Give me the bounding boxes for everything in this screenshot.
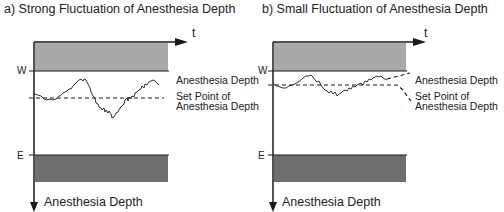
diagram-graphics [0,0,504,212]
panel-a-lower-band [35,155,168,182]
panel-b-depth-label-leader [387,73,410,79]
panel-a-depth-arrow-icon [30,202,38,212]
panel-b-graphics [268,38,426,212]
panel-b-time-arrow-icon [413,38,426,46]
panel-b-depth-arrow-icon [269,202,277,212]
panel-a-graphics [29,38,188,212]
panel-a-time-arrow-icon [175,38,188,46]
panel-b-lower-band [274,155,406,182]
panel-a-upper-band [35,43,168,71]
panel-b-set-point-line [268,85,411,101]
panel-b-upper-band [274,43,406,71]
